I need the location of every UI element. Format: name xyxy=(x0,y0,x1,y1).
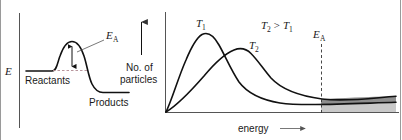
svg-text:E: E xyxy=(105,29,113,41)
particles-axis-label-line2: particles xyxy=(120,74,157,85)
svg-text:2: 2 xyxy=(267,25,271,34)
particles-axis-label-line1: No. of xyxy=(126,62,153,73)
svg-text:E: E xyxy=(312,28,320,40)
energy-axis-label: E xyxy=(4,65,12,77)
maxwell-boltzmann-panel: T 1 T 2 T 2 > T 1 E A en xyxy=(166,12,400,134)
products-label: Products xyxy=(89,97,128,108)
reactants-label: Reactants xyxy=(25,75,70,86)
svg-text:>: > xyxy=(273,19,280,31)
mb-activation-energy-label: E A xyxy=(312,28,326,43)
curve-t2-label: T 2 xyxy=(249,39,259,54)
curve-t1-label: T 1 xyxy=(196,17,206,32)
temperature-comparison-annotation: T 2 > T 1 xyxy=(261,19,293,34)
left-activation-energy-label: E A xyxy=(105,29,119,44)
energy-profile-panel: E Reactants Products E A xyxy=(4,13,129,128)
svg-text:A: A xyxy=(113,35,119,44)
mb-x-axis-label-group: energy xyxy=(238,123,305,134)
figure-container: E Reactants Products E A No. of particle… xyxy=(0,0,402,140)
svg-text:1: 1 xyxy=(202,23,206,32)
activation-energy-leader-line xyxy=(77,40,104,52)
mb-x-axis-label: energy xyxy=(238,123,269,134)
svg-text:A: A xyxy=(320,34,326,43)
svg-text:1: 1 xyxy=(289,25,293,34)
particles-axis-label-group: No. of particles xyxy=(120,22,157,85)
svg-text:2: 2 xyxy=(255,45,259,54)
